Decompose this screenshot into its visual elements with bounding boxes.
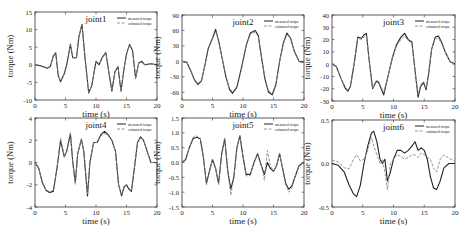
y-tick-label: -30	[320, 98, 329, 105]
measured-torque-line	[35, 24, 157, 93]
y-tick-label: -4	[27, 204, 33, 211]
x-tick-label: 5	[211, 102, 215, 110]
y-axis-label: torque (Nm)	[302, 37, 312, 79]
x-tick-label: 20	[301, 209, 309, 217]
y-axis-label: torque (Nm)	[5, 141, 15, 183]
y-tick-label: -2	[27, 181, 32, 188]
x-tick-label: 0	[33, 209, 37, 217]
y-tick-label: -0.5	[319, 204, 329, 211]
y-tick-label: 1.5	[171, 115, 179, 122]
subplot-title: joint5	[231, 120, 254, 130]
legend-measured-label: measured torque	[275, 20, 299, 24]
x-tick-label: 20	[452, 209, 460, 217]
subplot-joint1: 05101520-10-5051015joint1measured torque…	[5, 9, 161, 120]
y-tick-label: -1.5	[169, 204, 179, 211]
legend-estimated-label: estimated torque	[426, 25, 450, 29]
legend-estimated-label: estimated torque	[128, 128, 152, 132]
subplot-title: joint1	[84, 14, 106, 24]
legend-measured-label: measured torque	[426, 125, 450, 129]
x-tick-label: 15	[421, 103, 429, 111]
legend-estimated-label: estimated torque	[426, 130, 450, 134]
y-tick-label: 90	[173, 12, 180, 19]
y-tick-label: 0	[326, 61, 329, 68]
legend-estimated-label: estimated torque	[275, 25, 299, 29]
subplot-joint2: 05101520-60-300306090joint2measured torq…	[152, 12, 308, 120]
x-tick-label: 15	[421, 209, 429, 217]
y-tick-label: -0.5	[169, 174, 179, 181]
legend-measured-label: measured torque	[426, 20, 450, 24]
x-tick-label: 15	[270, 209, 278, 217]
x-tick-label: 20	[301, 102, 309, 110]
x-axis-label: time (s)	[380, 110, 408, 120]
x-tick-label: 15	[270, 102, 278, 110]
y-tick-label: 10	[26, 26, 33, 33]
legend-estimated-label: estimated torque	[275, 128, 299, 132]
legend-measured-label: measured torque	[275, 123, 299, 127]
y-axis-label: torque (Nm)	[302, 142, 312, 184]
y-tick-label: -30	[170, 73, 179, 80]
x-tick-label: 0	[33, 102, 37, 110]
x-axis-label: time (s)	[229, 216, 257, 226]
torque-comparison-figure: 05101520-10-5051015joint1measured torque…	[0, 0, 473, 235]
y-tick-label: 0.5	[321, 117, 329, 124]
legend-measured-label: measured torque	[128, 123, 152, 127]
y-tick-label: 2	[29, 137, 32, 144]
y-axis-label: torque (Nm)	[152, 141, 162, 183]
measured-torque-line	[182, 136, 304, 189]
y-tick-label: 30	[323, 24, 330, 31]
x-tick-label: 20	[452, 103, 460, 111]
x-tick-label: 5	[361, 209, 365, 217]
y-tick-label: 4	[29, 115, 33, 122]
x-tick-label: 0	[180, 209, 184, 217]
y-tick-label: 5	[29, 44, 32, 51]
x-tick-label: 15	[123, 102, 131, 110]
y-tick-label: -5	[27, 79, 32, 86]
y-tick-label: 0.0	[321, 160, 329, 167]
subplot-joint3: 05101520-30-20-10010203040joint3measured…	[302, 12, 459, 121]
y-tick-label: -1.0	[169, 189, 179, 196]
subplot-title: joint4	[84, 120, 107, 130]
x-axis-label: time (s)	[82, 109, 110, 119]
y-tick-label: 40	[323, 12, 330, 19]
y-tick-label: 1.0	[171, 129, 179, 136]
estimated-torque-line	[332, 137, 455, 189]
y-tick-label: 60	[173, 27, 180, 34]
y-axis-label: torque (Nm)	[152, 36, 162, 78]
y-tick-label: -60	[170, 89, 179, 96]
measured-torque-line	[332, 33, 455, 97]
x-tick-label: 5	[361, 103, 365, 111]
y-tick-label: 0	[29, 159, 32, 166]
x-tick-label: 15	[123, 209, 131, 217]
y-tick-label: 10	[323, 48, 330, 55]
y-tick-label: -10	[23, 97, 32, 104]
x-axis-label: time (s)	[380, 216, 408, 226]
y-tick-label: 30	[173, 42, 180, 49]
y-tick-label: -20	[320, 85, 329, 92]
y-axis-label: torque (Nm)	[5, 35, 15, 77]
legend-measured-label: measured torque	[128, 17, 152, 21]
y-tick-label: 0.0	[171, 159, 179, 166]
y-tick-label: 0	[176, 58, 179, 65]
subplot-joint4: 05101520-4-2024joint4measured torqueesti…	[5, 115, 161, 227]
y-tick-label: 0	[29, 61, 32, 68]
subplot-title: joint6	[382, 122, 405, 132]
estimated-torque-line	[182, 136, 304, 195]
x-tick-label: 0	[330, 103, 334, 111]
subplot-title: joint3	[382, 17, 405, 27]
y-tick-label: 15	[26, 9, 33, 16]
x-tick-label: 0	[330, 209, 334, 217]
measured-torque-line	[332, 131, 455, 196]
x-axis-label: time (s)	[82, 216, 110, 226]
x-axis-label: time (s)	[229, 109, 257, 119]
subplot-joint5: 05101520-1.5-1.0-0.50.00.51.01.5joint5me…	[152, 115, 308, 227]
subplot-joint6: 05101520-0.50.00.5joint6measured torquee…	[302, 117, 459, 227]
legend-estimated-label: estimated torque	[128, 22, 152, 26]
x-tick-label: 5	[64, 102, 68, 110]
figure: 05101520-10-5051015joint1measured torque…	[0, 0, 473, 235]
x-tick-label: 5	[211, 209, 215, 217]
x-tick-label: 20	[154, 102, 162, 110]
y-tick-label: 20	[323, 36, 330, 43]
x-tick-label: 20	[154, 209, 162, 217]
y-tick-label: -10	[320, 73, 329, 80]
x-tick-label: 5	[64, 209, 68, 217]
